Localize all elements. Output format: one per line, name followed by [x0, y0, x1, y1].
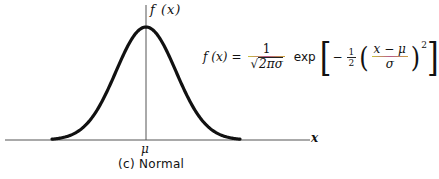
formula-equals: = [231, 50, 241, 64]
sqrt-symbol: √ [250, 57, 258, 71]
figure-caption: (c) Normal [118, 157, 184, 171]
z-denominator: σ [384, 57, 396, 71]
right-bracket: ] [427, 38, 439, 77]
inner-sign: − [332, 50, 342, 64]
left-paren: ( [359, 43, 368, 72]
left-bracket: [ [320, 38, 332, 77]
sqrt-radicand: 2πσ [258, 57, 283, 71]
y-axis-label: f (x) [150, 2, 181, 17]
formula-lhs: f (x) [203, 50, 227, 64]
x-axis-label: x [311, 131, 318, 145]
mean-tick-label: μ [141, 142, 149, 156]
coefficient-denominator: √2πσ [248, 57, 284, 71]
half-fraction: 1 2 [347, 47, 357, 68]
right-paren: ) [411, 43, 420, 72]
half-denominator: 2 [347, 58, 357, 68]
exp-function: exp [294, 50, 316, 64]
z-fraction: x − μ σ [372, 43, 408, 71]
half-numerator: 1 [347, 47, 357, 57]
normal-pdf-formula: f (x) = 1 √2πσ exp [ − 1 2 ( x − μ σ ) 2… [203, 32, 439, 82]
coefficient-numerator: 1 [261, 43, 273, 56]
coefficient-fraction: 1 √2πσ [248, 43, 284, 71]
z-numerator: x − μ [372, 43, 408, 56]
